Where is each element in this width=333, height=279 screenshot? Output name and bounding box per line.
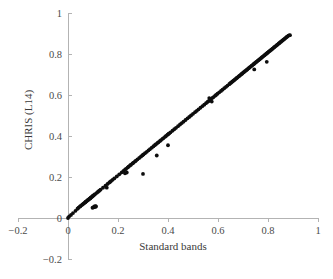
data-point [155,154,159,158]
data-point [88,197,92,201]
chart-figure: −0.200.20.40.60.81−0.200.20.40.60.81 Sta… [0,0,333,279]
data-point [92,205,96,209]
data-point [105,186,109,190]
data-point [288,33,292,37]
data-point [141,172,145,176]
x-tick-label: 0 [65,225,70,236]
data-point [123,171,127,175]
y-tick-label: 0 [57,213,62,224]
data-point [252,67,256,71]
x-tick-label: 0.4 [161,225,175,236]
y-tick-label: −0.2 [43,254,62,265]
data-point [166,143,170,147]
y-axis-title: CHRIS (L14) [22,90,35,151]
scatter-plot: −0.200.20.40.60.81−0.200.20.40.60.81 Sta… [0,0,333,279]
x-axis-title: Standard bands [139,240,207,252]
x-tick-label: 0.6 [211,225,224,236]
data-points-group [66,33,292,220]
x-tick-label: 0.8 [261,225,274,236]
y-tick-label: 0.4 [49,131,63,142]
y-tick-label: 0.2 [49,172,62,183]
data-point [210,100,214,104]
x-tick-label: −0.2 [8,225,27,236]
y-tick-label: 0.6 [49,90,62,101]
y-tick-label: 0.8 [49,49,62,60]
data-point [207,96,211,100]
y-tick-label: 1 [57,8,62,19]
data-point [265,60,269,64]
x-tick-label: 0.2 [111,225,124,236]
x-tick-label: 1 [315,225,320,236]
